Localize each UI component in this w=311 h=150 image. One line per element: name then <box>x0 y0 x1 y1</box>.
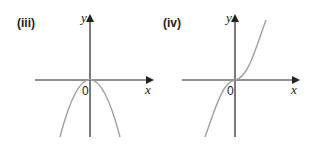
panel-iii: (iii) y x 0 <box>17 10 152 137</box>
origin-label: 0 <box>227 84 234 98</box>
panel-iv: (iv) y x 0 <box>163 10 298 137</box>
panel-label: (iii) <box>17 16 35 30</box>
x-axis-label: x <box>144 82 151 97</box>
diagram: (iii) y x 0 (iv) y x 0 <box>0 0 311 150</box>
origin-label: 0 <box>82 84 89 98</box>
x-axis-label: x <box>290 82 297 97</box>
y-axis-label: y <box>224 10 232 25</box>
y-axis-label: y <box>79 10 87 25</box>
panel-label: (iv) <box>163 16 181 30</box>
